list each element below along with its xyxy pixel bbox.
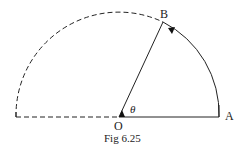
angle-wedge — [119, 110, 125, 117]
point-o-label: O — [114, 120, 123, 132]
arc-arrow-icon — [168, 27, 175, 34]
figure-caption: Fig 6.25 — [104, 133, 141, 144]
dashed-arc — [16, 12, 163, 117]
figure-6-25: B θ O A Fig 6.25 — [0, 0, 244, 146]
angle-theta-label: θ — [130, 104, 135, 115]
radius-ob — [119, 22, 163, 117]
solid-arc-ab — [163, 22, 219, 117]
point-a-label: A — [225, 110, 234, 122]
point-b-label: B — [160, 8, 168, 20]
